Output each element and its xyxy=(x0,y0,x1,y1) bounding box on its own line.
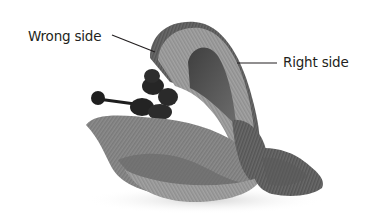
figure: Wrong side Right side xyxy=(0,0,374,223)
right-side-label: Right side xyxy=(283,56,349,70)
wrong-side-label: Wrong side xyxy=(28,30,101,44)
wrong-side-leader-line xyxy=(112,35,155,52)
